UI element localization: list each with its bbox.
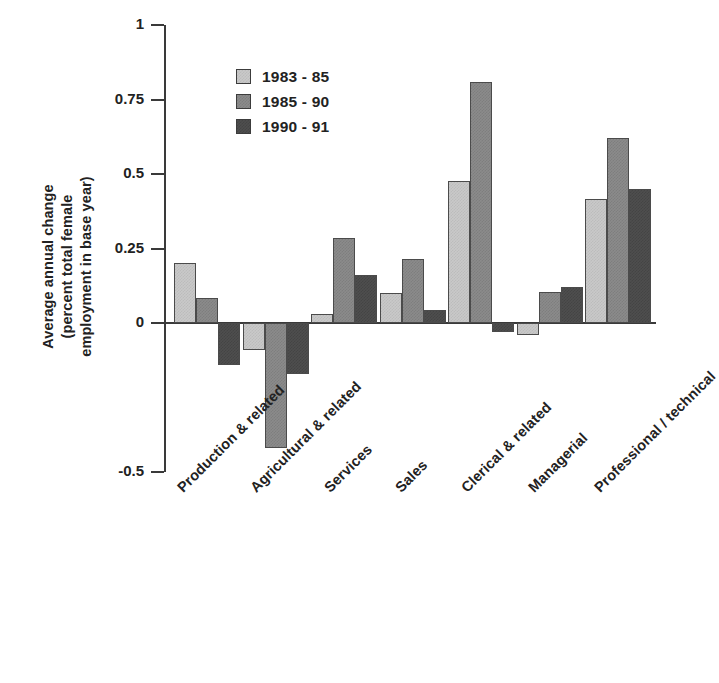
bar-group: [448, 25, 514, 472]
bar: [311, 314, 333, 323]
legend-swatch-icon: [236, 119, 251, 134]
y-tick-label: 1: [136, 15, 144, 32]
bar: [539, 292, 561, 323]
y-tick-0: 0: [151, 322, 164, 324]
y-axis-title-line-2: (percent total female: [58, 102, 77, 432]
legend-item: 1985 - 90: [236, 89, 329, 114]
bar: [196, 298, 218, 323]
y-tick--0-5: -0.5: [151, 471, 164, 473]
bar: [585, 199, 607, 323]
bar: [380, 293, 402, 323]
y-tick-label: 0.5: [123, 164, 144, 181]
y-tick-label: 0.75: [115, 90, 144, 107]
y-tick-0-25: 0.25: [151, 248, 164, 250]
y-axis-title: Average annual change (percent total fem…: [39, 102, 96, 432]
legend-label: 1983 - 85: [262, 68, 329, 86]
y-axis-title-line-1: Average annual change: [39, 102, 58, 432]
bar-group: [174, 25, 240, 472]
bar-group: [380, 25, 446, 472]
y-tick-label: 0.25: [115, 239, 144, 256]
legend-label: 1985 - 90: [262, 93, 329, 111]
y-tick-0-5: 0.5: [151, 173, 164, 175]
bar: [333, 238, 355, 323]
bar: [174, 263, 196, 323]
bar-group: [585, 25, 651, 472]
y-tick-label: -0.5: [118, 462, 144, 479]
bar: [243, 323, 265, 350]
y-tick-1: 1: [151, 24, 164, 26]
legend-swatch-icon: [236, 69, 251, 84]
legend-label: 1990 - 91: [262, 118, 329, 136]
bar: [607, 138, 629, 323]
bar: [448, 181, 470, 323]
y-tick-label: 0: [136, 313, 144, 330]
bar: [629, 189, 651, 323]
bar: [561, 287, 583, 323]
y-axis-title-line-3: employment in base year): [77, 102, 96, 432]
bar: [492, 323, 514, 332]
bar: [424, 310, 446, 323]
bar: [287, 323, 309, 374]
bar: [402, 259, 424, 323]
legend-item: 1990 - 91: [236, 114, 329, 139]
bar: [470, 82, 492, 323]
legend: 1983 - 851985 - 901990 - 91: [236, 64, 329, 139]
bar: [218, 323, 240, 365]
y-tick-0-75: 0.75: [151, 99, 164, 101]
bar: [517, 323, 539, 335]
legend-item: 1983 - 85: [236, 64, 329, 89]
bar: [355, 275, 377, 323]
legend-swatch-icon: [236, 94, 251, 109]
